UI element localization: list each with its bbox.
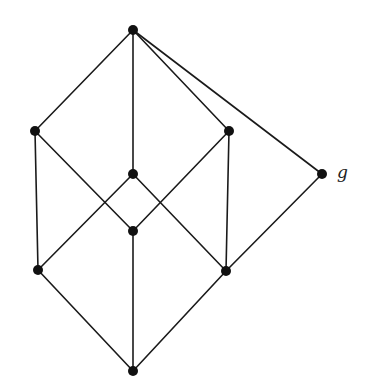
edge-center-upper-to-lower-left — [38, 174, 133, 270]
edges-group — [35, 30, 322, 371]
edge-upper-left-to-center-lower — [35, 131, 133, 231]
hasse-diagram: g — [0, 0, 365, 389]
node-center-upper — [128, 169, 138, 179]
node-center-lower — [128, 226, 138, 236]
edge-center-upper-to-lower-right — [133, 174, 226, 271]
node-lower-left — [33, 265, 43, 275]
node-g — [317, 169, 327, 179]
node-bottom — [128, 366, 138, 376]
edge-top-to-upper-left — [35, 30, 133, 131]
edge-lower-right-to-bottom — [133, 271, 226, 371]
node-upper-right — [224, 126, 234, 136]
edge-upper-left-to-lower-left — [35, 131, 38, 270]
edge-lower-left-to-bottom — [38, 270, 133, 371]
edge-top-to-g — [133, 30, 322, 174]
node-lower-right — [221, 266, 231, 276]
labels-group: g — [337, 162, 348, 182]
edge-upper-right-to-center-lower — [133, 131, 229, 231]
edge-g-to-lower-right — [226, 174, 322, 271]
node-top — [128, 25, 138, 35]
edge-upper-right-to-lower-right — [226, 131, 229, 271]
edge-top-to-upper-right — [133, 30, 229, 131]
node-label-g: g — [337, 162, 348, 182]
node-upper-left — [30, 126, 40, 136]
